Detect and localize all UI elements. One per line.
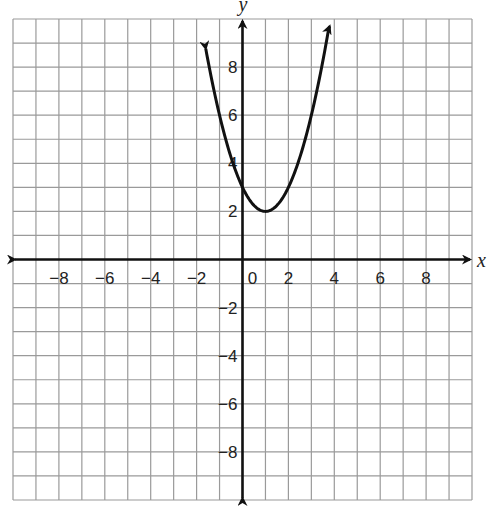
- y-tick-label: 6: [228, 106, 237, 125]
- y-tick-label: −8: [218, 443, 237, 462]
- x-axis-label: x: [476, 249, 486, 271]
- y-tick-label: −4: [218, 347, 237, 366]
- x-tick-label: −6: [95, 269, 114, 288]
- y-tick-label: 8: [228, 58, 237, 77]
- x-tick-label: −4: [141, 269, 160, 288]
- x-tick-label: −8: [49, 269, 68, 288]
- x-tick-label: 4: [330, 269, 339, 288]
- x-tick-label: 0: [248, 269, 257, 288]
- y-tick-label: −2: [218, 299, 237, 318]
- y-tick-label: −6: [218, 395, 237, 414]
- coordinate-plane: −8−6−4−202468−8−6−4−22468 x y: [0, 0, 487, 514]
- y-axis-label: y: [237, 0, 248, 16]
- x-tick-label: 8: [421, 269, 430, 288]
- y-tick-label: 2: [228, 202, 237, 221]
- axes: [15, 21, 470, 498]
- x-tick-label: 6: [375, 269, 384, 288]
- x-tick-label: −2: [187, 269, 206, 288]
- x-tick-label: 2: [284, 269, 293, 288]
